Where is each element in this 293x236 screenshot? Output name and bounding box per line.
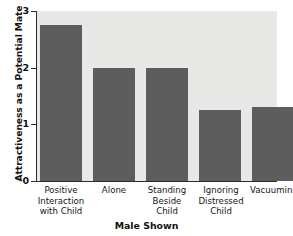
- bar-standing-beside-child: [146, 68, 188, 181]
- x-category-label-4: Vacuuming: [240, 185, 293, 196]
- bar-slot-alone: [93, 11, 135, 181]
- bar-series: [37, 11, 277, 181]
- x-axis-line: [36, 181, 277, 182]
- bar-alone: [93, 68, 135, 181]
- bar-ignoring-distressed-child: [199, 110, 241, 181]
- y-tick-label-2: 2: [5, 63, 29, 73]
- bar-chart-figure: Attractiveness as a Potential Mate 3 2 1…: [0, 0, 293, 236]
- y-tick-label-3: 3: [5, 6, 29, 16]
- y-tick-label-1: 1: [5, 119, 29, 129]
- x-axis-title: Male Shown: [0, 220, 293, 231]
- bar-slot-positive-interaction-with-child: [40, 11, 82, 181]
- bar-slot-standing-beside-child: [146, 11, 188, 181]
- bar-vacuuming: [252, 107, 293, 181]
- x-axis-category-labels: PositiveInteractionwith Child Alone Stan…: [37, 185, 277, 219]
- y-axis-title: Attractiveness as a Potential Mate: [13, 4, 24, 184]
- bar-positive-interaction-with-child: [40, 25, 82, 181]
- bar-slot-ignoring-distressed-child: [199, 11, 241, 181]
- y-tick-label-0: 0: [5, 176, 29, 186]
- bar-slot-vacuuming: [252, 11, 293, 181]
- y-tick-mark-0: [31, 181, 37, 182]
